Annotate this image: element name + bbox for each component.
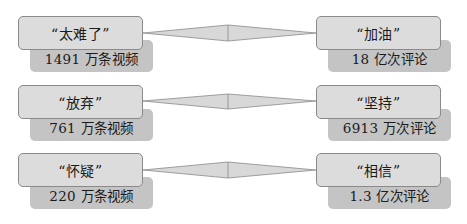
left-label-box-3: “怀疑”	[18, 153, 143, 187]
left-label-box-1: “太难了”	[18, 16, 143, 50]
left-label-text-2: “放弃”	[58, 92, 102, 112]
left-label-text-3: “怀疑”	[58, 160, 102, 180]
left-stat-text-1: 1491 万条视频	[45, 48, 138, 68]
comparison-diagram: 1491 万条视频 “太难了” 18 亿次评论 “加油” 761 万条视频 “放…	[0, 0, 467, 224]
right-label-box-2: “坚持”	[316, 85, 441, 119]
right-stat-text-1: 18 亿次评论	[352, 48, 428, 68]
left-label-text-1: “太难了”	[51, 23, 110, 43]
right-label-text-1: “加油”	[356, 23, 400, 43]
right-label-box-3: “相信”	[316, 153, 441, 187]
right-label-text-3: “相信”	[356, 160, 400, 180]
right-label-box-1: “加油”	[316, 16, 441, 50]
connector-row-1	[143, 25, 316, 41]
right-label-text-2: “坚持”	[356, 92, 400, 112]
left-label-box-2: “放弃”	[18, 85, 143, 119]
connector-row-3	[143, 162, 316, 178]
right-stat-text-3: 1.3 亿次评论	[349, 185, 429, 205]
connector-row-2	[143, 94, 316, 109]
left-stat-text-2: 761 万条视频	[49, 117, 133, 137]
right-stat-text-2: 6913 万次评论	[343, 117, 436, 137]
left-stat-text-3: 220 万条视频	[49, 185, 133, 205]
